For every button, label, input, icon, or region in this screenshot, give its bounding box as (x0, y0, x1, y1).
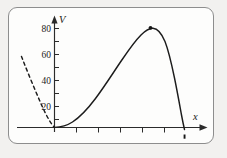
figure-root: 20 40 60 80 V x (0, 0, 227, 158)
y-axis-ticks (55, 29, 60, 120)
x-axis-ticks (77, 128, 165, 133)
x-axis-label: x (192, 111, 198, 122)
volume-curve (55, 28, 185, 129)
maximum-point-dot (149, 26, 153, 30)
y-axis-label: V (59, 14, 67, 25)
y-tick-label-20: 20 (42, 102, 52, 112)
y-tick-label-40: 40 (42, 76, 52, 86)
x-axis-arrow-icon (200, 124, 208, 130)
y-tick-label-60: 60 (42, 50, 52, 60)
volume-function-plot: 20 40 60 80 V x (9, 8, 214, 144)
figure-panel: 20 40 60 80 V x (8, 7, 214, 144)
right-root-tick-mark (184, 135, 186, 139)
y-tick-label-80: 80 (42, 24, 52, 34)
y-axis-arrow-icon (51, 16, 57, 24)
dashed-branch-curve (22, 57, 55, 128)
